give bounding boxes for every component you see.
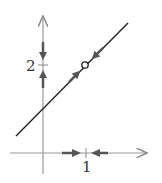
x-tick-label: 1: [82, 158, 92, 176]
y-axis-arrow-down-icon: [39, 42, 47, 60]
y-axis-arrow-up-icon: [39, 70, 47, 88]
y-tick-label: 2: [26, 57, 36, 75]
open-circle-point: [82, 62, 88, 68]
x-axis-arrow-right-icon: [62, 149, 81, 157]
x-axis-arrow-left-icon: [91, 149, 108, 157]
phase-diagram: 2 1: [0, 0, 162, 183]
